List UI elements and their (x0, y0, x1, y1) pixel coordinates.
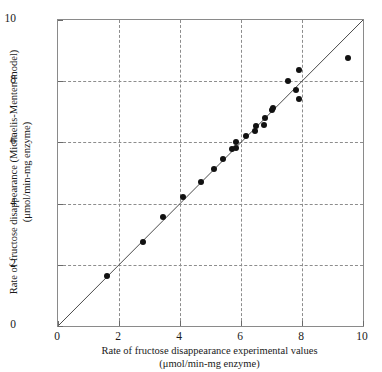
x-axis-tick (119, 321, 120, 326)
data-point (220, 156, 226, 162)
x-axis-tick-label: 6 (220, 331, 260, 343)
data-point (243, 133, 249, 139)
data-point (261, 122, 267, 128)
x-axis-tick-label: 10 (342, 331, 382, 343)
x-axis-tick (180, 321, 181, 326)
data-point (293, 87, 299, 93)
data-point (252, 128, 258, 134)
x-axis-tick-label: 8 (281, 331, 321, 343)
x-axis-tick (363, 321, 364, 326)
y-axis-title: Rate of fructose disappearance (Michaeli… (2, 19, 38, 325)
y-axis-tick (58, 204, 63, 205)
y-axis-title-line2: (μmol/min-mg enzyme) (20, 122, 33, 222)
y-axis-tick (58, 20, 63, 21)
data-point (285, 78, 291, 84)
data-point (296, 67, 302, 73)
data-point (345, 55, 351, 61)
plot-area (57, 19, 364, 327)
y-axis-tick-label: 4 (0, 197, 16, 209)
y-axis-tick-label: 2 (0, 258, 16, 270)
x-axis-tick-label: 4 (159, 331, 199, 343)
data-point (211, 166, 217, 172)
x-axis-tick-label: 2 (98, 331, 138, 343)
x-axis-tick (58, 321, 59, 326)
y-axis-tick-label: 0 (0, 319, 16, 331)
data-point (104, 273, 110, 279)
y-axis-tick-label: 6 (0, 135, 16, 147)
data-point (296, 96, 302, 102)
x-axis-tick-label: 0 (37, 331, 77, 343)
x-axis-title-line1: Rate of fructose disappearance experimen… (57, 344, 362, 357)
x-axis-tick (302, 321, 303, 326)
y-axis-tick-label: 8 (0, 74, 16, 86)
x-axis-tick (241, 321, 242, 326)
y-axis-tick (58, 326, 63, 327)
y-axis-tick-label: 10 (0, 13, 16, 25)
x-axis-title-line2: (μmol/min-mg enzyme) (57, 357, 362, 370)
x-axis-title: Rate of fructose disappearance experimen… (57, 344, 362, 370)
y-axis-tick (58, 81, 63, 82)
scatter-plot-figure: Rate of fructose disappearance (Michaeli… (0, 0, 382, 372)
y-axis-tick (58, 142, 63, 143)
parity-reference-line (58, 20, 363, 326)
data-point (253, 123, 259, 129)
y-axis-tick (58, 265, 63, 266)
